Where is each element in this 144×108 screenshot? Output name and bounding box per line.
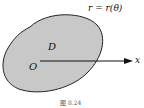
origin-label: O <box>29 62 37 72</box>
region-label: D <box>48 42 56 52</box>
arrowhead-icon <box>124 58 133 64</box>
figure-caption: 图 8.24 <box>60 100 81 106</box>
diagram-graphics <box>0 0 144 108</box>
polar-region-diagram: r = r(θ) D O x 图 8.24 <box>0 0 144 108</box>
region-d-shape <box>3 15 103 92</box>
curve-equation-label: r = r(θ) <box>88 4 122 13</box>
x-axis-label: x <box>135 56 140 65</box>
